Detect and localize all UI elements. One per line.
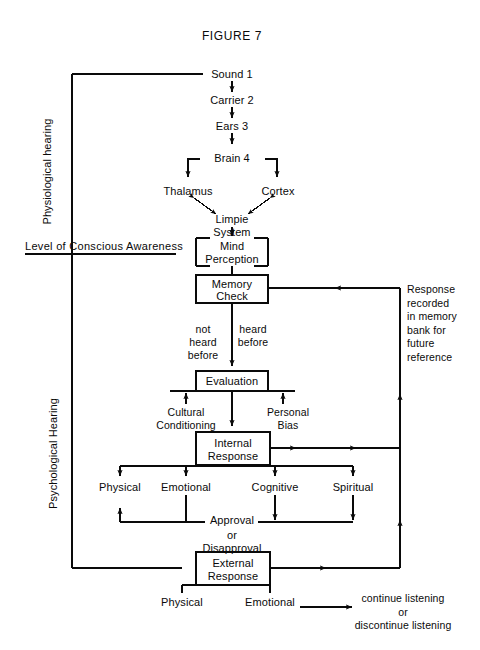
axis-label-physiological: Physiological hearing	[41, 87, 54, 257]
branch-label-heard-before: heard before	[238, 323, 268, 349]
branch-label-internal-emotional: Emotional	[161, 481, 211, 494]
node-cortex: Cortex	[262, 185, 295, 198]
node-memory-line2: Check	[216, 289, 248, 303]
branch-label-external-emotional: Emotional	[245, 596, 295, 609]
annotation-memory-feedback: Response recorded in memory bank for fut…	[407, 283, 457, 364]
branch-label-not-heard-before: not heard before	[188, 323, 218, 362]
node-evaluation: Evaluation	[206, 374, 258, 388]
approval-label-line2: or	[227, 529, 237, 542]
branch-label-internal-physical: Physical	[99, 481, 141, 494]
node-internal-line2: Response	[208, 449, 258, 463]
node-thalamus: Thalamus	[163, 185, 212, 198]
branch-label-personal-bias: Personal Bias	[267, 406, 309, 432]
node-limpie-line2: System	[213, 226, 250, 239]
branch-label-internal-cognitive: Cognitive	[252, 481, 299, 494]
node-sound: Sound 1	[211, 68, 253, 81]
branch-label-external-physical: Physical	[161, 596, 203, 609]
approval-label-line3: Disapproval	[202, 542, 261, 555]
axis-label-psychological: Psychological Hearing	[47, 369, 60, 539]
branch-label-cultural-conditioning: Cultural Conditioning	[156, 406, 216, 432]
node-external-line1: External	[212, 556, 253, 570]
node-brain: Brain 4	[214, 152, 250, 165]
node-limpie-line1: Limpie	[215, 213, 248, 226]
branch-label-internal-spiritual: Spiritual	[333, 481, 374, 494]
conscious-awareness-divider-label: Level of Conscious Awareness	[25, 240, 183, 253]
node-mind-line1: Mind	[220, 239, 244, 253]
node-carrier: Carrier 2	[210, 94, 254, 107]
figure-page: FIGURE 7 Physiological hearing Psycholog…	[0, 0, 480, 650]
approval-label-line1: Approval	[210, 514, 254, 527]
node-mind-line2: Perception	[205, 252, 259, 266]
annotation-outcome: continue listening or discontinue listen…	[355, 592, 452, 633]
node-internal-line1: Internal	[214, 436, 252, 450]
node-ears: Ears 3	[216, 120, 248, 133]
page-title: FIGURE 7	[202, 30, 262, 43]
node-external-line2: Response	[208, 569, 258, 583]
